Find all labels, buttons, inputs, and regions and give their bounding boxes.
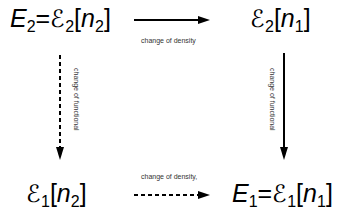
arrows-layer [0,0,346,218]
label-top-change-of-density: change of density [141,37,196,44]
label-right-change-of-functional: change of functional [269,68,276,131]
arrow-top-solid-icon [134,16,210,24]
arrow-right-solid-icon [280,53,288,160]
arrow-bottom-dashed-icon [134,191,210,199]
label-left-change-of-functional: change of functional [73,68,80,131]
label-bottom-change-of-density: change of density, [141,173,197,180]
arrow-left-dashed-icon [56,55,64,160]
